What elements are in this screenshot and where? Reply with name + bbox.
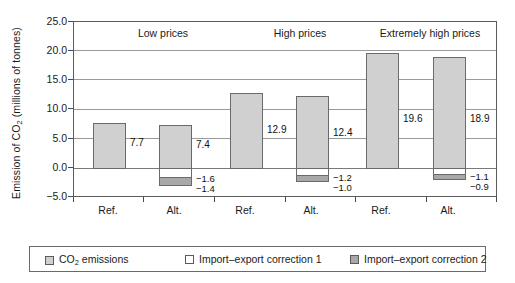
y-tick-label-25: 25.0	[23, 15, 67, 27]
value-label-low-alt-correction2: −1.4	[196, 183, 215, 194]
y-tick-label-5: 5.0	[23, 132, 67, 144]
x-tick-mark-1	[143, 197, 144, 202]
x-tick-mark-4	[355, 197, 356, 202]
x-axis-label-extreme-alt: Alt.	[420, 204, 476, 216]
x-tick-mark-0	[73, 197, 74, 202]
group-header-high-prices: High prices	[235, 27, 365, 39]
x-axis-label-low-alt: Alt.	[146, 204, 202, 216]
y-tick-label-0: 0.0	[23, 161, 67, 173]
chart-legend: CO2 emissions Import–export correction 1…	[29, 246, 486, 272]
value-label-high-alt: 12.4	[333, 127, 352, 138]
bar-low-alt-emission	[159, 125, 192, 169]
y-axis-title-suffix: (millions of tonnes)	[10, 27, 22, 120]
group-header-extremely-high-prices: Extremely high prices	[355, 27, 505, 39]
bar-extreme-alt-emission	[433, 57, 466, 169]
bar-extreme-alt-correction2	[433, 174, 466, 180]
value-label-extreme-ref: 19.6	[403, 113, 422, 124]
value-label-high-alt-correction2: −1.0	[333, 182, 352, 193]
y-tick-label-15: 15.0	[23, 73, 67, 85]
correction1-swatch-icon	[185, 255, 194, 264]
y-tick-label-10: 10.0	[23, 102, 67, 114]
value-label-low-ref: 7.7	[130, 137, 144, 148]
y-tick-label-neg5: −5.0	[23, 190, 67, 202]
legend-item-correction-1: Import–export correction 1	[185, 253, 322, 265]
value-label-extreme-alt-correction2: −0.9	[470, 181, 489, 192]
value-label-low-alt: 7.4	[196, 139, 210, 150]
x-tick-mark-6	[496, 197, 497, 202]
x-axis-label-high-ref: Ref.	[217, 204, 273, 216]
value-label-high-ref: 12.9	[267, 124, 286, 135]
y-axis-title-subscript: 2	[15, 120, 24, 124]
legend-label-co2-emissions: CO2 emissions	[59, 253, 129, 267]
x-axis-label-low-ref: Ref.	[80, 204, 136, 216]
y-axis-title-prefix: Emission of CO	[10, 125, 22, 199]
gridline-20	[74, 50, 496, 51]
x-axis-label-extreme-ref: Ref.	[353, 204, 409, 216]
legend-item-correction-2: Import–export correction 2	[350, 253, 487, 265]
legend-label-co2-prefix: CO	[59, 253, 75, 265]
x-tick-mark-3	[285, 197, 286, 202]
y-tick-label-20: 20.0	[23, 44, 67, 56]
y-axis-title: Emission of CO2 (millions of tonnes)	[10, 1, 24, 226]
bar-high-alt-correction2	[296, 175, 329, 182]
plot-area	[73, 21, 497, 197]
emission-swatch-icon	[45, 256, 54, 265]
co2-emission-bar-chart: Emission of CO2 (millions of tonnes) 25.…	[0, 0, 515, 283]
value-label-extreme-alt: 18.9	[470, 113, 489, 124]
bar-low-alt-correction2	[159, 177, 192, 186]
legend-item-co2-emissions: CO2 emissions	[45, 253, 129, 267]
bar-high-alt-emission	[296, 96, 329, 169]
x-tick-mark-2	[214, 197, 215, 202]
bar-low-ref-emission	[93, 123, 126, 169]
correction2-swatch-icon	[350, 255, 359, 264]
legend-label-correction-2: Import–export correction 2	[364, 253, 487, 265]
bar-extreme-ref-emission	[366, 53, 399, 169]
bar-high-ref-emission	[230, 93, 263, 169]
x-tick-mark-5	[426, 197, 427, 202]
x-axis-label-high-alt: Alt.	[283, 204, 339, 216]
legend-label-co2-suffix: emissions	[79, 253, 129, 265]
legend-label-correction-1: Import–export correction 1	[199, 253, 322, 265]
group-header-low-prices: Low prices	[98, 27, 228, 39]
